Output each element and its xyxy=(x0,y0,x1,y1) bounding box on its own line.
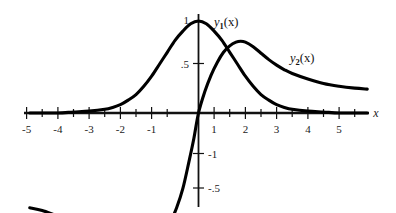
plot-canvas: -5 -4 -3 -2 -1 1 2 3 4 5 x 1 .5 xyxy=(0,0,396,213)
y-tick-label: -.5 xyxy=(208,182,220,194)
x-tick-label: -3 xyxy=(85,123,95,135)
x-axis-tick-labels: -5 -4 -3 -2 -1 1 2 3 4 5 xyxy=(22,123,342,135)
curve-label-y1: y1(x) xyxy=(212,15,238,31)
x-tick-label: 5 xyxy=(336,123,342,135)
x-tick-label: 1 xyxy=(211,123,217,135)
curve-annotations: y1(x) y2(x) xyxy=(212,15,314,67)
x-tick-label: 2 xyxy=(243,123,249,135)
x-tick-label: 3 xyxy=(274,123,280,135)
x-tick-label: -1 xyxy=(147,123,156,135)
x-axis-label: x xyxy=(372,106,379,120)
y-tick-label: .5 xyxy=(181,58,190,70)
curve-label-y2: y2(x) xyxy=(288,51,314,67)
x-tick-label: -4 xyxy=(53,123,63,135)
x-tick-label: -5 xyxy=(22,123,32,135)
y-tick-label: -1 xyxy=(208,148,217,160)
figure-container: -5 -4 -3 -2 -1 1 2 3 4 5 x 1 .5 xyxy=(0,0,396,213)
x-tick-label: 4 xyxy=(305,123,311,135)
x-tick-label: -2 xyxy=(116,123,125,135)
